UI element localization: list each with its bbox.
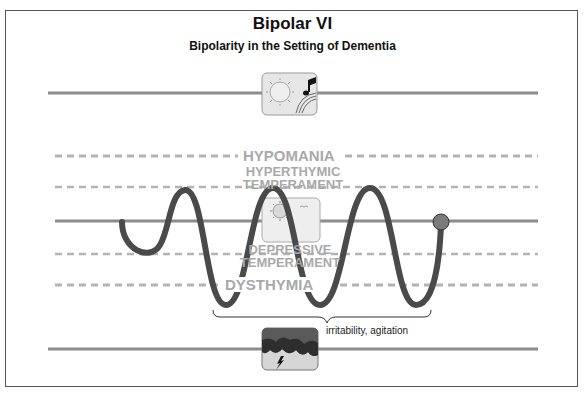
irritability-annotation: irritability, agitation: [326, 325, 408, 336]
sun-and-music-icon: [262, 73, 317, 115]
mood-chart: [0, 0, 585, 401]
hyperthymic-temperament-label: HYPERTHYMIC TEMPERAMENT: [233, 165, 353, 191]
depressive-temperament-label: DEPRESSIVE TEMPERAMENT: [230, 243, 350, 269]
storm-cloud-lightning-icon: [262, 328, 318, 370]
end-dot: [433, 214, 449, 230]
dysthymia-label: DYSTHYMIA: [222, 277, 316, 292]
hypomania-label: HYPOMANIA: [240, 148, 338, 163]
hyperthymic-line2: TEMPERAMENT: [233, 178, 353, 191]
depressive-line2: TEMPERAMENT: [230, 256, 350, 269]
curly-brace: [213, 310, 431, 323]
